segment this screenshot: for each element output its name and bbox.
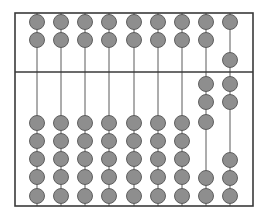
bead-rod-6-lower-2[interactable] xyxy=(151,134,166,149)
bead-rod-2-lower-3[interactable] xyxy=(54,152,69,167)
bead-rod-8-lower-2[interactable] xyxy=(199,95,214,110)
bead-rod-9-lower-1[interactable] xyxy=(223,77,238,92)
bead-rod-7-lower-5[interactable] xyxy=(175,189,190,204)
bead-rod-6-lower-3[interactable] xyxy=(151,152,166,167)
bead-rod-3-upper-1[interactable] xyxy=(78,15,93,30)
bead-rod-8-lower-5[interactable] xyxy=(199,189,214,204)
bead-rod-4-upper-1[interactable] xyxy=(102,15,117,30)
bead-rod-5-lower-5[interactable] xyxy=(127,189,142,204)
bead-rod-1-lower-5[interactable] xyxy=(30,189,45,204)
bead-rod-3-lower-3[interactable] xyxy=(78,152,93,167)
bead-rod-3-lower-5[interactable] xyxy=(78,189,93,204)
bead-rod-6-lower-1[interactable] xyxy=(151,116,166,131)
bead-rod-4-lower-1[interactable] xyxy=(102,116,117,131)
bead-rod-8-lower-1[interactable] xyxy=(199,77,214,92)
bead-rod-2-lower-5[interactable] xyxy=(54,189,69,204)
bead-rod-3-lower-2[interactable] xyxy=(78,134,93,149)
bead-rod-4-upper-2[interactable] xyxy=(102,33,117,48)
bead-rod-8-upper-1[interactable] xyxy=(199,15,214,30)
bead-rod-2-upper-1[interactable] xyxy=(54,15,69,30)
bead-rod-6-lower-5[interactable] xyxy=(151,189,166,204)
bead-rod-5-lower-3[interactable] xyxy=(127,152,142,167)
bead-rod-3-lower-4[interactable] xyxy=(78,170,93,185)
bead-rod-1-upper-2[interactable] xyxy=(30,33,45,48)
bead-rod-8-upper-2[interactable] xyxy=(199,33,214,48)
bead-rod-3-upper-2[interactable] xyxy=(78,33,93,48)
bead-rod-5-lower-1[interactable] xyxy=(127,116,142,131)
bead-rod-9-lower-2[interactable] xyxy=(223,95,238,110)
bead-rod-5-upper-2[interactable] xyxy=(127,33,142,48)
bead-rod-7-lower-4[interactable] xyxy=(175,170,190,185)
bead-rod-8-lower-4[interactable] xyxy=(199,171,214,186)
bead-rod-9-upper-2[interactable] xyxy=(223,53,238,68)
bead-rod-7-lower-1[interactable] xyxy=(175,116,190,131)
bead-rod-5-lower-2[interactable] xyxy=(127,134,142,149)
bead-rod-4-lower-2[interactable] xyxy=(102,134,117,149)
bead-rod-7-lower-2[interactable] xyxy=(175,134,190,149)
bead-rod-9-lower-3[interactable] xyxy=(223,153,238,168)
bead-rod-1-lower-1[interactable] xyxy=(30,116,45,131)
bead-rod-1-lower-4[interactable] xyxy=(30,170,45,185)
bead-rod-6-lower-4[interactable] xyxy=(151,170,166,185)
bead-rod-9-lower-4[interactable] xyxy=(223,171,238,186)
bead-rod-1-upper-1[interactable] xyxy=(30,15,45,30)
bead-rod-2-lower-4[interactable] xyxy=(54,170,69,185)
bead-rod-7-lower-3[interactable] xyxy=(175,152,190,167)
bead-rod-5-upper-1[interactable] xyxy=(127,15,142,30)
bead-rod-6-upper-2[interactable] xyxy=(151,33,166,48)
bead-rod-4-lower-4[interactable] xyxy=(102,170,117,185)
abacus-diagram xyxy=(0,0,265,219)
bead-rod-6-upper-1[interactable] xyxy=(151,15,166,30)
bead-rod-2-upper-2[interactable] xyxy=(54,33,69,48)
bead-rod-8-lower-3[interactable] xyxy=(199,115,214,130)
bead-rod-9-lower-5[interactable] xyxy=(223,189,238,204)
bead-rod-2-lower-1[interactable] xyxy=(54,116,69,131)
bead-rod-7-upper-2[interactable] xyxy=(175,33,190,48)
bead-rod-1-lower-2[interactable] xyxy=(30,134,45,149)
bead-rod-4-lower-3[interactable] xyxy=(102,152,117,167)
bead-rod-5-lower-4[interactable] xyxy=(127,170,142,185)
bead-rod-4-lower-5[interactable] xyxy=(102,189,117,204)
bead-rod-9-upper-1[interactable] xyxy=(223,15,238,30)
bead-rod-1-lower-3[interactable] xyxy=(30,152,45,167)
bead-rod-2-lower-2[interactable] xyxy=(54,134,69,149)
bead-rod-7-upper-1[interactable] xyxy=(175,15,190,30)
bead-rod-3-lower-1[interactable] xyxy=(78,116,93,131)
